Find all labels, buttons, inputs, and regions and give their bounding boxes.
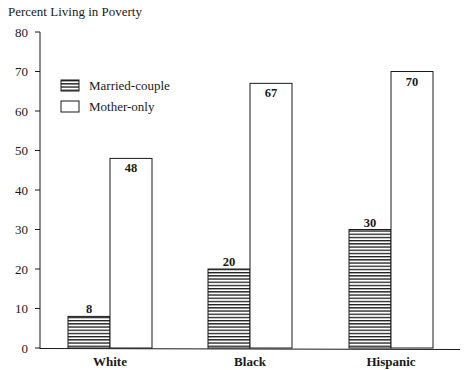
y-tick-label: 60 xyxy=(15,104,28,119)
x-axis-line xyxy=(40,349,460,350)
x-category-label: White xyxy=(93,354,127,369)
y-tick-label: 70 xyxy=(15,64,28,79)
bar-black-mother-only xyxy=(250,83,292,348)
y-axis-title: Percent Living in Poverty xyxy=(8,4,142,19)
bar-hispanic-mother-only xyxy=(391,72,433,349)
bars: 848White2067Black3070Hispanic xyxy=(68,72,433,370)
data-label: 30 xyxy=(364,216,377,230)
y-tick-label: 80 xyxy=(15,25,28,40)
y-tick-label: 30 xyxy=(15,222,28,237)
data-label: 70 xyxy=(406,75,419,89)
bar-hispanic-married-couple xyxy=(349,230,391,349)
chart: Percent Living in Poverty 01020304050607… xyxy=(0,0,472,370)
y-tick-label: 10 xyxy=(15,301,28,316)
legend: Married-coupleMother-only xyxy=(61,78,170,114)
bar-black-married-couple xyxy=(208,269,250,348)
data-label: 8 xyxy=(86,302,92,316)
y-tick-label: 20 xyxy=(15,262,28,277)
y-tick-label: 0 xyxy=(22,341,29,356)
data-label: 20 xyxy=(223,255,236,269)
x-category-label: Black xyxy=(234,354,267,369)
data-label: 48 xyxy=(125,161,138,175)
bar-white-married-couple xyxy=(68,316,110,348)
legend-label: Married-couple xyxy=(89,78,170,93)
data-label: 67 xyxy=(265,86,278,100)
legend-swatch-mother-only xyxy=(61,101,79,112)
x-category-label: Hispanic xyxy=(366,354,415,369)
bar-white-mother-only xyxy=(110,158,152,348)
legend-label: Mother-only xyxy=(89,99,155,114)
y-tick-label: 50 xyxy=(15,143,28,158)
legend-swatch-married-couple xyxy=(61,80,79,91)
y-tick-label: 40 xyxy=(15,183,28,198)
